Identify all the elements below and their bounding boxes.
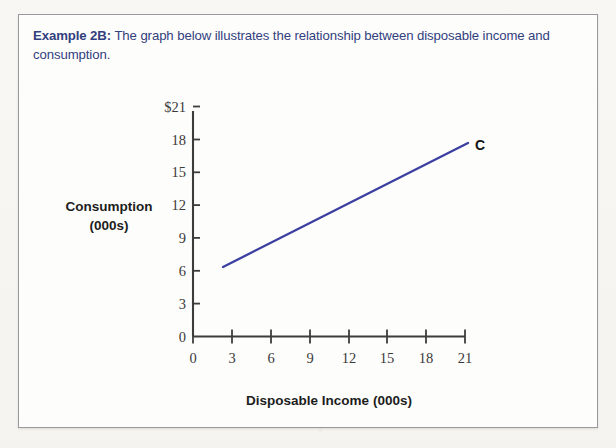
example-box: Example 2B: The graph below illustrates … <box>18 14 598 428</box>
x-tick-label-21: 21 <box>458 350 473 366</box>
y-tick-label-6: 6 <box>179 263 186 279</box>
x-tick-label-3: 3 <box>228 350 235 366</box>
x-tick-label-0: 0 <box>189 350 196 366</box>
x-tick-label-15: 15 <box>380 350 395 366</box>
series-label-c: C <box>475 137 485 153</box>
x-axis-tick-labels: 0 3 6 9 12 15 18 21 <box>189 350 472 366</box>
x-axis-title: Disposable Income (000s) <box>246 393 412 408</box>
y-tick-label-0: 0 <box>179 329 186 345</box>
chart-svg: $21 18 15 12 9 6 3 0 0 3 6 9 12 15 18 21 <box>19 15 599 429</box>
y-tick-label-3: 3 <box>179 296 186 312</box>
y-tick-label-12: 12 <box>172 197 187 213</box>
x-tick-label-9: 9 <box>306 350 313 366</box>
y-axis-title-line2: (000s) <box>89 218 128 233</box>
y-axis-tick-labels: $21 18 15 12 9 6 3 0 <box>164 99 186 345</box>
x-tick-label-18: 18 <box>419 350 434 366</box>
consumption-line-series-c <box>223 143 468 267</box>
chart-figure: $21 18 15 12 9 6 3 0 0 3 6 9 12 15 18 21 <box>19 15 599 429</box>
y-tick-label-21: $21 <box>164 99 186 115</box>
y-tick-label-9: 9 <box>179 230 186 246</box>
y-tick-label-18: 18 <box>172 132 187 148</box>
x-tick-label-6: 6 <box>267 350 274 366</box>
x-tick-label-12: 12 <box>342 350 357 366</box>
y-axis-title-line1: Consumption <box>66 199 153 214</box>
y-tick-label-15: 15 <box>172 164 187 180</box>
